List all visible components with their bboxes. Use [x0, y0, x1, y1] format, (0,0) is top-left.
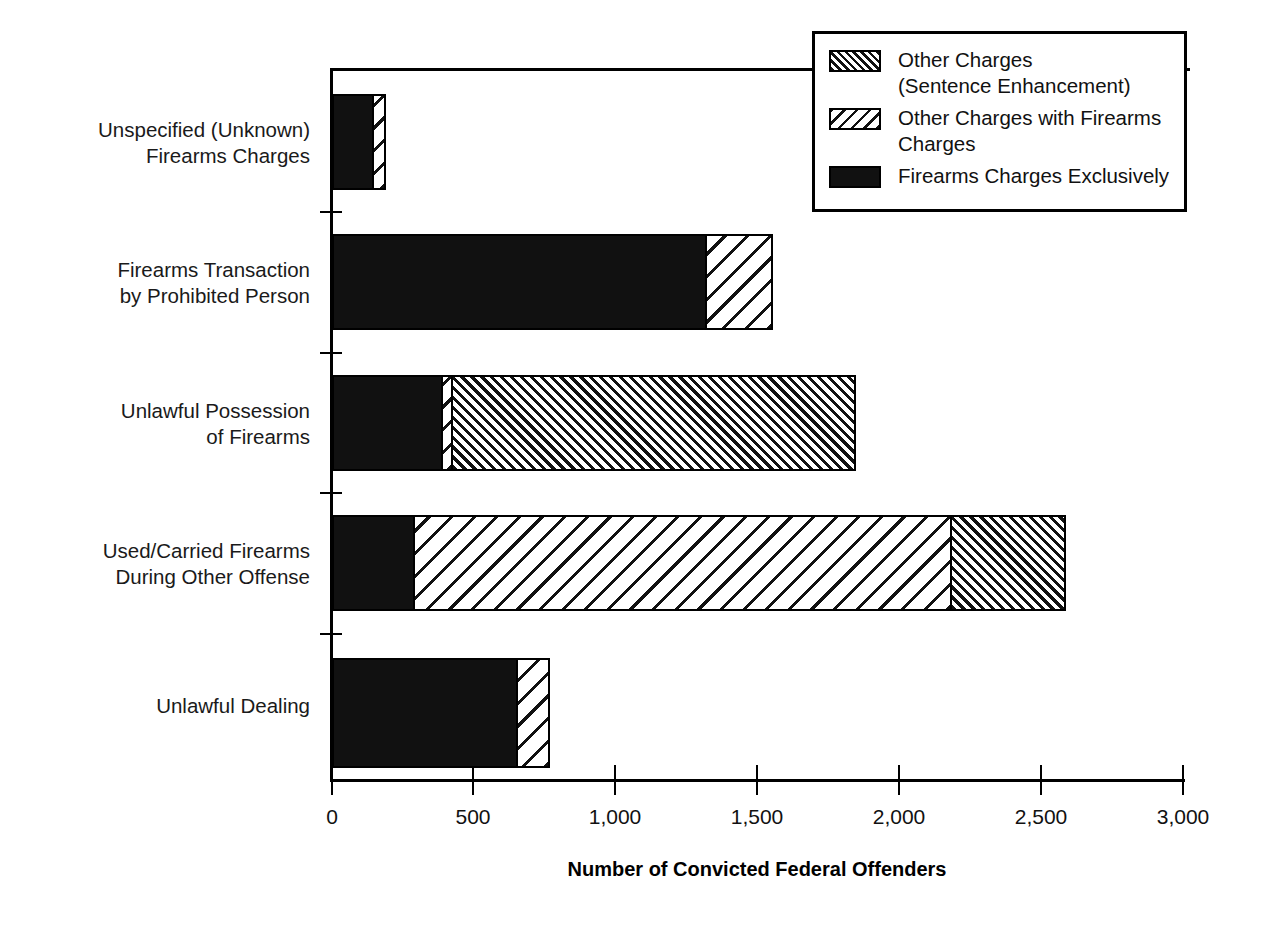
bar-used-carried	[332, 515, 1066, 611]
category-label-transaction: Firearms Transaction by Prohibited Perso…	[20, 257, 310, 309]
bar-segment-other-with-firearms	[372, 94, 386, 190]
bar-segment-sentence-enhancement	[950, 515, 1066, 611]
category-label-possession: Unlawful Possession of Firearms	[20, 398, 310, 450]
bar-segment-firearms-exclusively	[332, 234, 707, 330]
bar-segment-other-with-firearms	[705, 234, 773, 330]
x-axis-tick	[472, 765, 474, 795]
bar-firearms-transaction	[332, 234, 773, 330]
x-tick-label-2000: 2,000	[849, 805, 949, 829]
legend-label-other-with-firearms: Other Charges with Firearms Charges	[898, 105, 1161, 157]
x-tick-label-1500: 1,500	[707, 805, 807, 829]
x-axis-tick	[1040, 765, 1042, 795]
x-axis-tick	[331, 765, 333, 795]
legend-swatch-firearms-exclusively-icon	[829, 166, 881, 188]
bar-segment-firearms-exclusively	[332, 658, 518, 768]
x-tick-label-500: 500	[423, 805, 523, 829]
category-label-dealing: Unlawful Dealing	[20, 693, 310, 719]
x-tick-label-0: 0	[282, 805, 382, 829]
legend-swatch-other-with-firearms-icon	[829, 108, 881, 130]
bar-unspecified	[332, 94, 386, 190]
y-axis-tick	[320, 352, 342, 354]
x-axis-tick	[1182, 765, 1184, 795]
legend-label-firearms-exclusively: Firearms Charges Exclusively	[898, 163, 1169, 189]
x-tick-label-3000: 3,000	[1133, 805, 1233, 829]
y-axis-tick	[320, 492, 342, 494]
bar-segment-firearms-exclusively	[332, 515, 415, 611]
bar-unlawful-dealing	[332, 658, 550, 768]
bar-segment-firearms-exclusively	[332, 94, 374, 190]
y-axis-tick	[320, 211, 342, 213]
bar-segment-sentence-enhancement	[451, 375, 856, 471]
bar-chart: Unspecified (Unknown) Firearms Charges F…	[0, 0, 1267, 927]
legend-entry-firearms-exclusively: Firearms Charges Exclusively	[829, 163, 1179, 189]
x-tick-label-2500: 2,500	[991, 805, 1091, 829]
legend: Other Charges (Sentence Enhancement) Oth…	[812, 31, 1187, 212]
bar-segment-other-with-firearms	[413, 515, 952, 611]
x-axis-tick	[614, 765, 616, 795]
category-label-used-carried: Used/Carried Firearms During Other Offen…	[20, 538, 310, 590]
x-axis-tick	[898, 765, 900, 795]
x-axis-tick	[756, 765, 758, 795]
legend-label-sentence-enhancement: Other Charges (Sentence Enhancement)	[898, 47, 1130, 99]
legend-entry-sentence-enhancement: Other Charges (Sentence Enhancement)	[829, 47, 1179, 99]
bar-segment-firearms-exclusively	[332, 375, 443, 471]
x-tick-label-1000: 1,000	[565, 805, 665, 829]
legend-entry-other-with-firearms: Other Charges with Firearms Charges	[829, 105, 1179, 157]
bar-unlawful-possession	[332, 375, 856, 471]
x-axis-title: Number of Convicted Federal Offenders	[357, 858, 1157, 881]
category-label-unspecified: Unspecified (Unknown) Firearms Charges	[20, 117, 310, 169]
legend-swatch-sentence-enhancement-icon	[829, 50, 881, 72]
y-axis-tick	[320, 633, 342, 635]
bar-segment-other-with-firearms	[516, 658, 550, 768]
